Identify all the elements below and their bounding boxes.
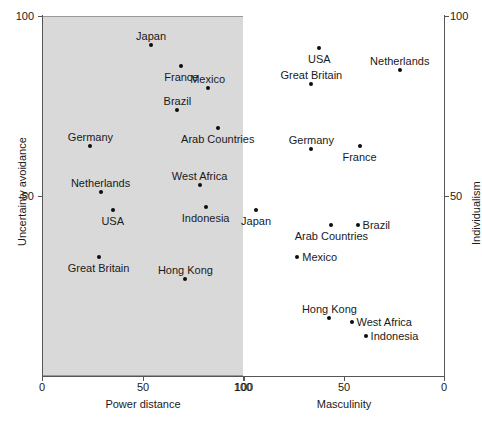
- right-x-ticklabel-0: 0: [432, 382, 456, 393]
- data-point: [206, 86, 210, 90]
- data-point: [398, 68, 402, 72]
- right-x-axis-title: Masculinity: [243, 398, 445, 410]
- left-y-tick-100: [38, 16, 42, 17]
- data-point-label: Japan: [241, 216, 271, 227]
- left-x-ticklabel-0: 0: [30, 382, 54, 393]
- left-x-axis-title: Power distance: [42, 398, 244, 410]
- data-point-label: West Africa: [357, 317, 412, 328]
- data-point-label: Arab Countries: [295, 231, 368, 242]
- right-y-ticklabel-100: 100: [450, 11, 468, 22]
- left-y-axis-line: [42, 15, 43, 377]
- data-point-label: Germany: [289, 135, 334, 146]
- data-point: [216, 126, 220, 130]
- left-x-ticklabel-50: 50: [131, 382, 155, 393]
- data-point-label: Japan: [136, 31, 166, 42]
- right-y-tick-50: [445, 196, 449, 197]
- data-point-label: Hong Kong: [158, 265, 213, 276]
- left-y-axis-title: Uncertainty avoidance: [16, 137, 28, 246]
- right-y-ticklabel-50: 50: [450, 191, 462, 202]
- right-x-ticklabel-50: 50: [332, 382, 356, 393]
- data-point-label: Indonesia: [371, 331, 419, 342]
- data-point: [204, 205, 208, 209]
- right-y-axis-title: Individualism: [470, 181, 482, 245]
- right-y-tick-100: [445, 16, 449, 17]
- data-point-label: Mexico: [190, 74, 225, 85]
- data-point: [350, 320, 354, 324]
- data-point-label: France: [342, 152, 376, 163]
- data-point-label: Indonesia: [182, 213, 230, 224]
- data-point-label: USA: [308, 54, 331, 65]
- left-plot-panel: [42, 16, 244, 376]
- data-point: [198, 183, 202, 187]
- data-point-label: Brazil: [164, 96, 192, 107]
- data-point-label: Netherlands: [71, 178, 130, 189]
- data-point: [97, 255, 101, 259]
- data-point: [358, 144, 362, 148]
- right-plot-panel: [243, 16, 445, 376]
- data-point-label: Netherlands: [370, 56, 429, 67]
- data-point: [149, 43, 153, 47]
- data-point: [356, 223, 360, 227]
- data-point-label: Germany: [68, 132, 113, 143]
- left-y-tick-50: [38, 196, 42, 197]
- data-point-label: Great Britain: [68, 263, 130, 274]
- data-point: [175, 108, 179, 112]
- data-point-label: Mexico: [302, 252, 337, 263]
- left-y-ticklabel-100: 100: [6, 11, 34, 22]
- right-x-ticklabel-100: 100: [228, 382, 258, 393]
- data-point-label: Hong Kong: [302, 304, 357, 315]
- data-point-label: USA: [101, 216, 124, 227]
- data-point-label: West Africa: [172, 171, 227, 182]
- data-point-label: Arab Countries: [181, 134, 254, 145]
- data-point-label: Great Britain: [280, 70, 342, 81]
